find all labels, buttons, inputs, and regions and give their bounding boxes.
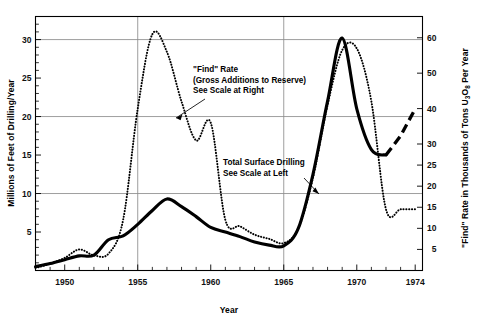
- left-tick-label-10: 10: [22, 189, 32, 199]
- right-axis-title-suffix: Per Year: [460, 47, 470, 85]
- drilling-annotation-line-1: Total Surface Drilling: [223, 158, 305, 167]
- x-tick-label-1950: 1950: [55, 277, 74, 287]
- left-tick-label-25: 25: [22, 73, 32, 83]
- x-tick-label-1965: 1965: [274, 277, 293, 287]
- right-axis-title: "Find" Rate in Thousands of Tons U3O8 Pe…: [460, 47, 471, 247]
- left-tick-label-15: 15: [22, 150, 32, 160]
- x-tick-label-1970: 1970: [347, 277, 366, 287]
- right-axis-title-group: "Find" Rate in Thousands of Tons U3O8 Pe…: [460, 47, 471, 247]
- left-tick-label-30: 30: [22, 35, 32, 45]
- find-rate-annotation-line-3: See Scale at Right: [193, 86, 264, 95]
- right-tick-label-5: 5: [432, 244, 437, 254]
- right-tick-label-25: 25: [427, 160, 437, 170]
- right-tick-label-30: 30: [427, 139, 437, 149]
- find-rate-annotation-line-2: (Gross Additions to Reserve): [193, 76, 306, 85]
- uranium-drilling-find-rate-chart: 51015202530 51015202530405060 1950195519…: [0, 0, 481, 322]
- left-tick-label-5: 5: [27, 227, 32, 237]
- right-tick-label-60: 60: [427, 33, 437, 43]
- x-tick-label-1955: 1955: [128, 277, 147, 287]
- right-tick-label-40: 40: [427, 104, 437, 114]
- find-rate-annotation-line-1: "Find" Rate: [193, 65, 239, 74]
- right-axis-title-prefix: "Find" Rate in Thousands of Tons U: [460, 99, 470, 248]
- right-tick-label-15: 15: [427, 202, 437, 212]
- chart-figure: 51015202530 51015202530405060 1950195519…: [0, 0, 481, 322]
- left-tick-label-20: 20: [22, 112, 32, 122]
- drilling-annotation-line-2: See Scale at Left: [223, 169, 288, 178]
- right-tick-label-50: 50: [427, 68, 437, 78]
- left-axis-title-group: Millions of Feet of Drilling/Year: [6, 79, 16, 207]
- x-axis-title: Year: [220, 305, 239, 315]
- left-axis-title: Millions of Feet of Drilling/Year: [6, 79, 16, 207]
- right-tick-label-10: 10: [427, 223, 437, 233]
- x-tick-label-1974: 1974: [406, 277, 425, 287]
- right-tick-label-20: 20: [427, 181, 437, 191]
- x-tick-label-1960: 1960: [201, 277, 220, 287]
